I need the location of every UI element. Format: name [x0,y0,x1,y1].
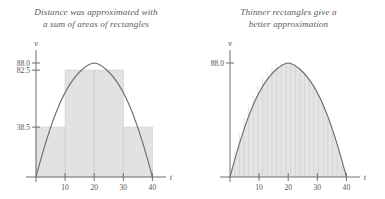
right-plot: 88.0 10 20 30 40 v t [192,0,384,199]
rectangle-bar-4 [123,127,152,177]
left-figure-panel: Distance was approximated with a sum of … [0,0,192,199]
left-plot-svg: 88.0 82.5 38.5 10 20 30 40 v t [0,0,192,199]
right-ytick-label-88: 88.0 [211,59,224,68]
right-xtick-label-20: 20 [284,183,292,192]
rectangle-bar-3 [94,70,123,177]
right-plot-svg: 88.0 10 20 30 40 v t [192,0,385,199]
left-rectangles [36,70,152,177]
left-x-axis-label: t [170,173,173,182]
right-x-axis-label: t [364,173,367,182]
left-ytick-label-82-5: 82.5 [17,66,30,75]
left-xtick-label-20: 20 [90,183,98,192]
left-ytick-label-38-5: 38.5 [17,123,30,132]
right-xtick-label-10: 10 [255,183,263,192]
rectangle-bar-1 [36,127,65,177]
right-y-axis-label: v [228,39,232,48]
left-plot: 88.0 82.5 38.5 10 20 30 40 v t [0,0,192,199]
right-xtick-label-40: 40 [343,183,351,192]
left-xtick-label-40: 40 [149,183,157,192]
figure-pair: Distance was approximated with a sum of … [0,0,385,199]
left-y-axis-label: v [34,39,38,48]
left-xtick-label-30: 30 [120,183,128,192]
right-figure-panel: Thinner rectangles give a better approxi… [192,0,385,199]
rectangle-bar-2 [65,70,94,177]
right-xtick-label-30: 30 [314,183,322,192]
left-xtick-label-10: 10 [61,183,69,192]
